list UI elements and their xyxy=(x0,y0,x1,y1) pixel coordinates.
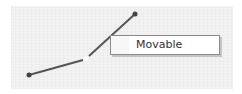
midpoint-handle[interactable] xyxy=(84,56,89,61)
tooltip-label: Movable xyxy=(136,38,182,52)
endpoint-handle-start[interactable] xyxy=(27,73,32,78)
endpoint-handle-end[interactable] xyxy=(133,12,138,17)
connector-segment-1[interactable] xyxy=(29,60,83,75)
tooltip-icon-gutter xyxy=(111,36,129,54)
movable-tooltip: Movable xyxy=(110,35,220,55)
